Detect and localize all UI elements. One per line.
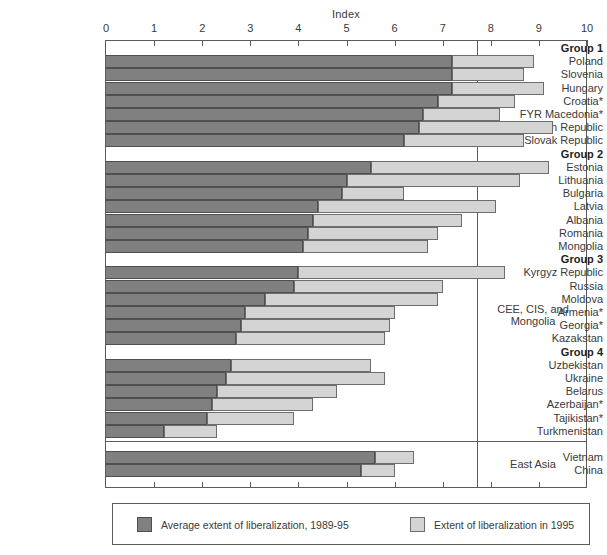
x-tick-label-6: 6 [392, 22, 398, 34]
bar-segment-extent-1995 [347, 174, 520, 187]
bar-row [106, 121, 553, 134]
bar-row [106, 425, 217, 438]
country-label-tajikistan: Tajikistan* [506, 412, 607, 425]
x-tick-mark-bottom-9 [539, 482, 540, 488]
x-tick-mark-bottom-1 [154, 482, 155, 488]
country-label-kazakstan: Kazakstan [506, 332, 607, 345]
bar-segment-extent-1995 [231, 359, 370, 372]
country-label-latvia: Latvia [506, 200, 607, 213]
country-label-armenia: Armenia* [506, 306, 607, 319]
bar-row [106, 372, 385, 385]
row-spacer [506, 438, 607, 451]
bar-row [106, 385, 337, 398]
legend: Average extent of liberalization, 1989-9… [112, 503, 590, 545]
bar-segment-average [106, 227, 308, 240]
bar-segment-extent-1995 [298, 266, 505, 279]
x-tick-label-5: 5 [343, 22, 349, 34]
bar-segment-average [106, 68, 452, 81]
x-tick-label-3: 3 [247, 22, 253, 34]
country-label-belarus: Belarus [506, 385, 607, 398]
bar-row [106, 68, 524, 81]
bar-segment-extent-1995 [313, 214, 462, 227]
bar-segment-extent-1995 [318, 200, 496, 213]
country-label-fyr-macedonia: FYR Macedonia* [506, 108, 607, 121]
country-label-moldova: Moldova [506, 293, 607, 306]
bar-row [106, 200, 496, 213]
bar-row [106, 306, 395, 319]
bar-row [106, 319, 390, 332]
country-label-uzbekistan: Uzbekistan [506, 359, 607, 372]
bar-row [106, 134, 524, 147]
country-label-kyrgyz-republic: Kyrgyz Republic [506, 266, 607, 279]
x-tick-mark-bottom-6 [395, 482, 396, 488]
country-label-croatia: Croatia* [506, 95, 607, 108]
bar-row [106, 464, 395, 477]
x-tick-label-2: 2 [199, 22, 205, 34]
bar-row [106, 174, 520, 187]
country-label-lithuania: Lithuania [506, 174, 607, 187]
bar-segment-extent-1995 [207, 412, 294, 425]
bar-segment-average [106, 425, 164, 438]
bar-segment-extent-1995 [404, 134, 524, 147]
bar-row [106, 293, 438, 306]
bar-segment-average [106, 280, 294, 293]
bar-segment-average [106, 332, 236, 345]
bar-segment-average [106, 385, 217, 398]
bar-segment-extent-1995 [423, 108, 500, 121]
country-label-georgia: Georgia* [506, 319, 607, 332]
x-tick-mark-bottom-3 [250, 482, 251, 488]
bar-segment-average [106, 187, 342, 200]
x-tick-mark-top-3 [250, 40, 251, 46]
bar-segment-extent-1995 [164, 425, 217, 438]
bar-segment-extent-1995 [419, 121, 554, 134]
bar-segment-average [106, 319, 241, 332]
bar-segment-extent-1995 [452, 68, 524, 81]
bar-row [106, 95, 515, 108]
x-tick-label-1: 1 [151, 22, 157, 34]
country-label-russia: Russia [506, 280, 607, 293]
x-tick-mark-bottom-8 [491, 482, 492, 488]
bar-row [106, 412, 294, 425]
x-tick-label-9: 9 [536, 22, 542, 34]
group-label-group-2: Group 2 [506, 148, 607, 161]
bar-segment-extent-1995 [236, 332, 385, 345]
x-tick-mark-bottom-7 [443, 482, 444, 488]
bar-segment-average [106, 306, 245, 319]
bar-row [106, 108, 500, 121]
legend-label-extent: Extent of liberalization in 1995 [434, 519, 574, 531]
bar-segment-average [106, 82, 452, 95]
bar-segment-average [106, 240, 303, 253]
bar-row [106, 240, 428, 253]
bar-segment-extent-1995 [294, 280, 443, 293]
country-label-bulgaria: Bulgaria [506, 187, 607, 200]
bar-segment-extent-1995 [217, 385, 337, 398]
bar-segment-extent-1995 [361, 464, 395, 477]
country-label-vietnam: Vietnam [506, 451, 607, 464]
group-label-group-4: Group 4 [506, 346, 607, 359]
x-tick-label-4: 4 [295, 22, 301, 34]
vrule-eastasia [477, 441, 478, 487]
group-label-group-1: Group 1 [506, 42, 607, 55]
x-axis-title: Index [105, 8, 587, 20]
bar-segment-extent-1995 [241, 319, 390, 332]
bar-row [106, 214, 462, 227]
x-tick-mark-bottom-2 [202, 482, 203, 488]
bar-segment-average [106, 266, 298, 279]
bar-segment-average [106, 398, 212, 411]
bar-segment-extent-1995 [308, 227, 438, 240]
bar-segment-average [106, 174, 347, 187]
bar-segment-average [106, 134, 404, 147]
x-tick-mark-top-7 [443, 40, 444, 46]
bar-segment-average [106, 451, 375, 464]
country-label-mongolia: Mongolia [506, 240, 607, 253]
x-tick-label-0: 0 [103, 22, 109, 34]
bar-row [106, 280, 443, 293]
x-tick-mark-top-4 [298, 40, 299, 46]
bar-segment-extent-1995 [371, 161, 549, 174]
bar-segment-extent-1995 [226, 372, 385, 385]
bar-row [106, 187, 404, 200]
bar-row [106, 266, 505, 279]
bar-segment-extent-1995 [438, 95, 515, 108]
legend-item-average: Average extent of liberalization, 1989-9… [137, 517, 349, 532]
bar-segment-extent-1995 [375, 451, 413, 464]
